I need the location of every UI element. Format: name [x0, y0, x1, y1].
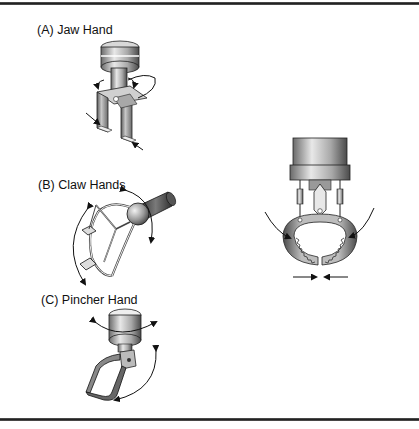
panel-label-claw-hands: (B) Claw Hands	[38, 178, 126, 192]
pincher-hand-illustration	[86, 309, 156, 400]
gripper-illustrations	[0, 0, 419, 429]
panel-label-pincher-hand: (C) Pincher Hand	[41, 293, 138, 307]
toothed-gripper-illustration	[265, 138, 374, 277]
jaw-hand-illustration	[86, 41, 155, 150]
claw-hand-illustration	[73, 190, 177, 284]
panel-label-jaw-hand: (A) Jaw Hand	[37, 23, 113, 37]
